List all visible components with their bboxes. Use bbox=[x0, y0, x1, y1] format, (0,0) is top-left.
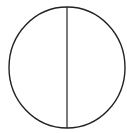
circle-diagram bbox=[0, 0, 127, 133]
diagram-canvas bbox=[0, 0, 127, 133]
